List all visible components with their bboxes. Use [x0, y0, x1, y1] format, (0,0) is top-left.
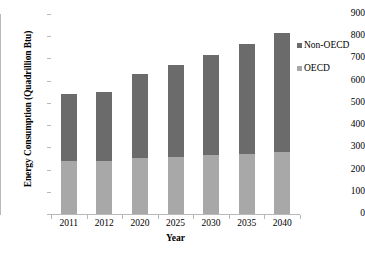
- chart-legend: Non-OECDOECD: [297, 40, 365, 86]
- bar-segment-oecd: [239, 154, 255, 214]
- x-tick-mark: [158, 215, 159, 219]
- legend-swatch-icon: [297, 43, 302, 48]
- bar-segment-oecd: [274, 152, 290, 214]
- x-tick-mark: [264, 215, 265, 219]
- y-tick-label: 300: [319, 143, 365, 153]
- y-tick-label: 200: [319, 165, 365, 175]
- bar-segment-non-oecd: [239, 44, 255, 153]
- y-tick-label: 0: [319, 209, 365, 219]
- x-tick-mark: [300, 215, 301, 219]
- bar-stack: [203, 55, 219, 214]
- x-axis-title: Year: [51, 233, 300, 243]
- bar-stack: [96, 92, 112, 214]
- bar-stack: [61, 94, 77, 214]
- x-tick-label: 2040: [259, 218, 305, 228]
- legend-label: Non-OECD: [304, 40, 349, 50]
- bar-segment-oecd: [132, 158, 148, 214]
- legend-swatch-icon: [297, 66, 302, 71]
- bar-stack: [132, 74, 148, 214]
- bar-segment-non-oecd: [203, 55, 219, 155]
- bar-segment-oecd: [203, 155, 219, 214]
- y-tick-label: 400: [319, 120, 365, 130]
- y-tick-label: 900: [319, 9, 365, 19]
- legend-entry[interactable]: OECD: [297, 63, 365, 73]
- x-tick-mark: [51, 215, 52, 219]
- bar-segment-oecd: [168, 157, 184, 214]
- x-tick-mark: [122, 215, 123, 219]
- x-axis-line: [51, 214, 300, 215]
- plot-area: [51, 14, 300, 214]
- bar-stack: [274, 33, 290, 214]
- bar-stack: [239, 44, 255, 214]
- bar-segment-oecd: [61, 161, 77, 214]
- bar-segment-non-oecd: [132, 74, 148, 158]
- legend-label: OECD: [304, 63, 330, 73]
- bar-segment-non-oecd: [96, 92, 112, 161]
- y-axis-title: Energy Consumption (Quadrillion Btu): [23, 4, 33, 214]
- y-tick-label: 100: [319, 187, 365, 197]
- x-tick-mark: [193, 215, 194, 219]
- y-axis-line: [0, 14, 1, 215]
- legend-entry[interactable]: Non-OECD: [297, 40, 365, 50]
- bar-segment-non-oecd: [61, 94, 77, 160]
- x-tick-mark: [229, 215, 230, 219]
- y-tick-label: 500: [319, 98, 365, 108]
- bar-segment-non-oecd: [168, 65, 184, 157]
- bar-segment-oecd: [96, 161, 112, 214]
- energy-consumption-stacked-bar-chart: Energy Consumption (Quadrillion Btu) 900…: [0, 0, 365, 256]
- x-tick-mark: [87, 215, 88, 219]
- bar-segment-non-oecd: [274, 33, 290, 152]
- bar-stack: [168, 65, 184, 214]
